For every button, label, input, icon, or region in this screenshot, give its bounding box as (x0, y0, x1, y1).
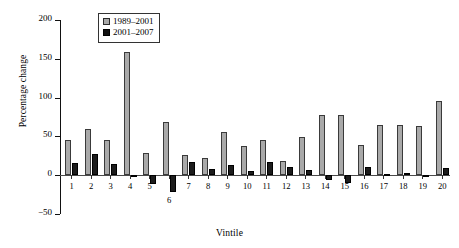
y-tick-100: 100 (55, 98, 60, 99)
bar-b-vintile-14 (326, 175, 332, 180)
x-tick-9 (227, 175, 228, 179)
legend-swatch-black-icon (103, 29, 110, 36)
bar-a-vintile-17 (377, 125, 383, 175)
x-axis-title: Vintile (0, 228, 459, 238)
y-tick-label--50: −50 (38, 207, 52, 217)
x-tick-10 (247, 175, 248, 179)
x-tick-19 (422, 175, 423, 179)
bar-a-vintile-2 (85, 129, 91, 176)
bar-b-vintile-20 (443, 168, 449, 175)
bar-a-vintile-8 (202, 158, 208, 175)
bar-b-vintile-18 (404, 173, 410, 175)
legend-item-2001-2007: 2001–2007 (103, 27, 154, 38)
plot-area: 200150100500−50 123456789101112131415161… (60, 20, 450, 214)
bar-chart: Percentage change 200150100500−50 123456… (0, 0, 459, 248)
bar-a-vintile-19 (416, 126, 422, 175)
x-tick-label-6: 6 (158, 195, 180, 205)
legend-item-1989-2001: 1989–2001 (103, 16, 154, 27)
x-tick-7 (188, 175, 189, 179)
x-tick-17 (383, 175, 384, 179)
bar-b-vintile-13 (306, 170, 312, 175)
legend-label-2001-2007: 2001–2007 (113, 27, 154, 38)
y-tick--50: −50 (55, 214, 60, 215)
x-tick-1 (71, 175, 72, 179)
x-tick-4 (130, 175, 131, 179)
bar-b-vintile-10 (248, 171, 254, 175)
x-tick-14 (325, 175, 326, 179)
x-tick-8 (208, 175, 209, 179)
x-tick-16 (364, 175, 365, 179)
bar-b-vintile-11 (267, 162, 273, 175)
x-tick-label-5: 5 (139, 181, 161, 191)
bar-a-vintile-18 (397, 125, 403, 175)
x-tick-12 (286, 175, 287, 179)
x-tick-13 (305, 175, 306, 179)
y-axis-title: Percentage change (18, 21, 28, 161)
bar-a-vintile-13 (299, 137, 305, 175)
x-tick-18 (403, 175, 404, 179)
y-tick-label-0: 0 (48, 168, 53, 178)
bar-a-vintile-7 (182, 155, 188, 175)
y-tick-label-150: 150 (39, 52, 53, 62)
y-tick-label-100: 100 (39, 91, 53, 101)
bar-b-vintile-9 (228, 165, 234, 175)
y-tick-200: 200 (55, 20, 60, 21)
y-tick-label-50: 50 (43, 129, 52, 139)
bar-a-vintile-10 (241, 146, 247, 175)
y-tick-label-200: 200 (39, 13, 53, 23)
bar-a-vintile-6 (163, 122, 169, 175)
x-tick-20 (442, 175, 443, 179)
x-tick-label-20: 20 (431, 181, 453, 191)
bar-a-vintile-3 (104, 140, 110, 175)
bar-b-vintile-6 (170, 175, 176, 192)
bar-a-vintile-14 (319, 115, 325, 175)
x-axis-line (60, 175, 450, 176)
bar-a-vintile-11 (260, 140, 266, 176)
bar-a-vintile-5 (143, 153, 149, 176)
bar-b-vintile-2 (92, 154, 98, 175)
bar-a-vintile-4 (124, 52, 130, 175)
bar-b-vintile-16 (365, 167, 371, 175)
bar-a-vintile-16 (358, 145, 364, 175)
bar-b-vintile-17 (384, 174, 390, 176)
bar-b-vintile-1 (72, 163, 78, 175)
bar-a-vintile-1 (65, 140, 71, 176)
bar-b-vintile-12 (287, 167, 293, 176)
bar-b-vintile-7 (189, 162, 195, 175)
legend-label-1989-2001: 1989–2001 (113, 16, 154, 27)
x-tick-5 (149, 175, 150, 179)
bar-b-vintile-3 (111, 164, 117, 175)
x-tick-15 (344, 175, 345, 179)
y-tick-150: 150 (55, 59, 60, 60)
x-tick-2 (91, 175, 92, 179)
x-tick-6 (169, 175, 170, 179)
x-tick-3 (110, 175, 111, 179)
y-tick-0: 0 (55, 175, 60, 176)
bar-b-vintile-4 (131, 175, 137, 177)
legend-swatch-gray-icon (103, 18, 110, 25)
bar-a-vintile-15 (338, 115, 344, 176)
bar-a-vintile-20 (436, 101, 442, 175)
y-tick-50: 50 (55, 136, 60, 137)
bar-b-vintile-8 (209, 169, 215, 175)
chart-legend: 1989–2001 2001–2007 (98, 13, 160, 43)
bar-a-vintile-12 (280, 161, 286, 175)
x-tick-11 (266, 175, 267, 179)
bar-b-vintile-19 (423, 175, 429, 177)
bar-a-vintile-9 (221, 132, 227, 175)
